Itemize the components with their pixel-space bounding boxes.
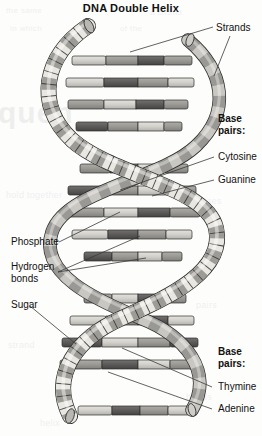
- label-phosphate: Phosphate: [11, 236, 59, 248]
- base-pair-rung: [72, 230, 192, 239]
- label-base-pairs-top: Base pairs:: [218, 113, 245, 136]
- base-pair-rung: [76, 122, 182, 131]
- label-thymine: Thymine: [218, 381, 256, 393]
- base-pair-rungs: [60, 56, 200, 415]
- base-pair-rung: [78, 406, 190, 415]
- label-hydrogen-bonds: Hydrogen bonds: [11, 261, 54, 284]
- label-adenine: Adenine: [218, 403, 255, 415]
- label-sugar: Sugar: [11, 299, 38, 311]
- label-strands: Strands: [216, 22, 250, 34]
- base-pair-rung: [64, 208, 200, 217]
- label-cytosine: Cytosine: [218, 151, 257, 163]
- label-guanine: Guanine: [218, 174, 256, 186]
- base-pair-rung: [68, 100, 188, 109]
- base-pair-rung: [60, 360, 196, 369]
- base-pair-rung: [72, 56, 192, 65]
- leader-sugar: [30, 306, 76, 344]
- label-base-pairs-bottom: Base pairs:: [218, 346, 245, 369]
- figure-page: the same a strand in which of the quen h…: [0, 0, 262, 436]
- leader-strands-b: [214, 36, 230, 76]
- base-pair-rung: [66, 78, 194, 87]
- base-pair-rung: [84, 252, 182, 261]
- dna-double-helix-illustration: [0, 0, 262, 436]
